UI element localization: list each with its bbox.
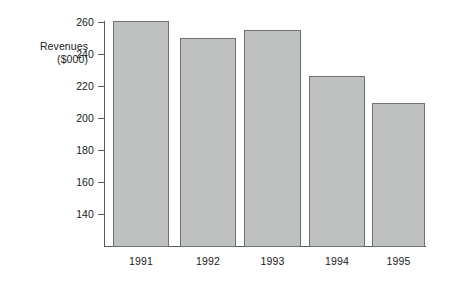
y-tick-mark-220: [98, 86, 105, 87]
y-tick-label-200-wrap: 200: [64, 113, 94, 124]
y-tick-mark-180: [98, 150, 105, 151]
y-tick-mark-140: [98, 214, 105, 215]
bar-1993[interactable]: [244, 30, 301, 247]
y-tick-label-180: 180: [66, 145, 94, 156]
y-tick-label-220: 220: [66, 81, 94, 92]
y-tick-label-140-wrap: 140: [64, 209, 94, 220]
bar-1991[interactable]: [113, 21, 169, 247]
y-tick-label-220-wrap: 220: [64, 81, 94, 92]
y-tick-label-140: 140: [66, 209, 94, 220]
x-axis-label-1992: 1992: [180, 255, 236, 267]
y-tick-label-260: 260: [66, 17, 94, 28]
y-tick-mark-200: [98, 118, 105, 119]
y-tick-mark-160: [98, 182, 105, 183]
x-axis-label-1993: 1993: [244, 255, 301, 267]
y-tick-label-200: 200: [66, 113, 94, 124]
bar-1992[interactable]: [180, 38, 236, 247]
y-tick-label-240: 240: [66, 49, 94, 60]
bar-1994[interactable]: [309, 76, 365, 247]
bar-1995[interactable]: [372, 103, 425, 247]
plot-area: 260 240 220 200 180 160 140: [0, 0, 454, 282]
x-axis-label-1991: 1991: [113, 255, 169, 267]
y-tick-label-160: 160: [66, 177, 94, 188]
y-tick-mark-240: [98, 54, 105, 55]
y-tick-label-240-wrap: 240: [64, 49, 94, 60]
x-axis-label-1994: 1994: [309, 255, 365, 267]
y-tick-label-260-wrap: 260: [64, 17, 94, 28]
y-tick-label-160-wrap: 160: [64, 177, 94, 188]
y-tick-label-180-wrap: 180: [64, 145, 94, 156]
y-tick-mark-260: [98, 22, 105, 23]
x-axis-label-1995: 1995: [372, 255, 425, 267]
revenues-bar-chart: Revenues ($000) 260 240 220 200 180 160: [0, 0, 454, 282]
